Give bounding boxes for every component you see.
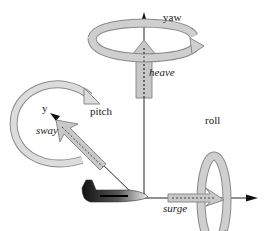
pitch-label: pitch (90, 105, 112, 117)
arrowhead-icon (246, 195, 258, 202)
yaw-rotation-arrow (92, 23, 194, 38)
yaw-label: yaw (163, 11, 181, 23)
y-axis-label: y (42, 102, 48, 114)
arrowhead-icon (190, 38, 204, 54)
roll-label: roll (205, 114, 220, 126)
six-dof-diagram: yaw heave pitch y sway roll surge (0, 0, 268, 231)
diagram-canvas (0, 0, 268, 231)
sway-label: sway (36, 124, 58, 136)
arrowhead-icon (84, 88, 100, 104)
aircraft-icon (82, 180, 148, 202)
heave-label: heave (149, 66, 175, 78)
surge-label: surge (163, 202, 187, 214)
arrowhead-icon (50, 113, 60, 121)
